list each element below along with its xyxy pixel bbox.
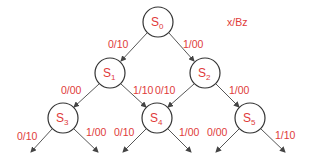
- state-node-s3: S3: [48, 103, 78, 133]
- edge-label: 1/00: [179, 126, 200, 138]
- edge-s3-out-0: 0/10: [17, 129, 52, 152]
- edge-label: 1/10: [275, 129, 296, 141]
- edge-label: 0/10: [17, 130, 38, 142]
- edge-label: 0/10: [155, 84, 176, 96]
- edge-s1-s4: 1/10: [121, 84, 154, 107]
- edge-s4-out-1: 1/00: [168, 126, 200, 152]
- edge-label: 1/10: [133, 84, 154, 96]
- state-node-s0: S0: [143, 7, 173, 37]
- edge-s4-out-0: 0/10: [114, 126, 146, 152]
- edge-label: 0/00: [207, 126, 228, 138]
- edge-label: 1/00: [86, 126, 107, 138]
- edge-label: 1/00: [183, 38, 204, 50]
- edge-label: 0/00: [61, 84, 82, 96]
- state-node-s2: S2: [190, 58, 220, 88]
- state-node-s4: S4: [142, 103, 172, 133]
- edge-label: 0/10: [114, 126, 135, 138]
- edge-s0-s1: 0/10: [108, 33, 147, 61]
- state-node-s5: S5: [235, 103, 265, 133]
- legend-label: x/Bz: [227, 16, 247, 28]
- state-node-s1: S1: [95, 58, 125, 88]
- state-tree-diagram: 0/10 1/00 0/00 1/10 0/10 1/00 0/10 1/00 …: [0, 0, 309, 163]
- edge-label: 1/00: [229, 84, 250, 96]
- edge-label: 0/10: [108, 38, 129, 50]
- edge-s5-out-1: 1/10: [261, 129, 296, 152]
- edge-s3-out-1: 1/00: [74, 126, 107, 152]
- edge-s5-out-0: 0/00: [207, 126, 239, 152]
- edge-s0-s2: 1/00: [169, 33, 204, 61]
